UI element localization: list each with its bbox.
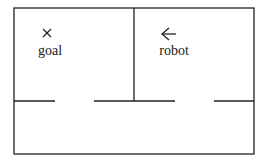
floor-plan-diagram: goal robot	[0, 0, 265, 162]
arrow-left-icon	[162, 28, 176, 40]
goal-label: goal	[38, 43, 62, 58]
cross-icon	[43, 29, 51, 37]
goal-marker: goal	[38, 29, 62, 58]
robot-marker: robot	[159, 28, 189, 58]
robot-label: robot	[159, 43, 189, 58]
